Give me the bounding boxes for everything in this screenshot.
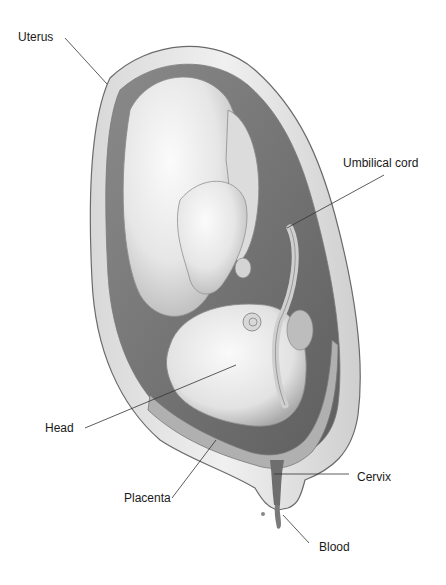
label-uterus: Uterus bbox=[18, 30, 53, 44]
leader-line-uterus bbox=[65, 38, 107, 84]
label-placenta: Placenta bbox=[124, 491, 171, 505]
label-cervix: Cervix bbox=[357, 470, 391, 484]
blood-drop bbox=[261, 512, 265, 516]
fetus-ear bbox=[243, 313, 261, 331]
leader-line-blood bbox=[283, 515, 309, 543]
label-blood: Blood bbox=[319, 540, 350, 554]
fetus-shoulder bbox=[287, 310, 313, 350]
label-head: Head bbox=[45, 421, 74, 435]
uterus-fetus-illustration bbox=[0, 0, 446, 585]
fetus-hand bbox=[235, 258, 251, 278]
label-umbilical-cord: Umbilical cord bbox=[343, 156, 418, 170]
